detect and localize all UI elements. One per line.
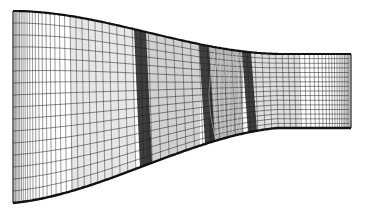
shaded-region-2 [146, 32, 200, 165]
streamwise-grid-line [332, 54, 333, 128]
streamwise-grid-line [337, 54, 338, 128]
mesh-diagram [0, 0, 366, 220]
streamwise-grid-line [27, 11, 28, 201]
streamwise-grid-line [25, 11, 26, 201]
streamwise-grid-line [334, 54, 335, 128]
streamwise-grid-line [32, 12, 33, 201]
streamwise-grid-line [30, 12, 31, 201]
